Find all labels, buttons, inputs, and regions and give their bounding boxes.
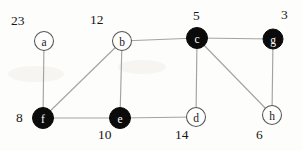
node-weight-b: 12 — [90, 13, 104, 27]
graph-edge-g-h — [272, 39, 273, 115]
node-weight-g: 3 — [281, 8, 288, 22]
node-weight-a: 23 — [11, 14, 25, 28]
node-weight-f: 8 — [16, 111, 23, 125]
graph-figure: abcgfedh 231253810146 — [0, 0, 302, 151]
graph-edge-e-d — [120, 117, 196, 118]
graph-node-g[interactable]: g — [263, 29, 283, 49]
edges-layer — [43, 38, 273, 118]
graph-node-h[interactable]: h — [263, 106, 282, 125]
graph-edge-a-f — [43, 41, 44, 118]
node-label-d: d — [193, 112, 199, 124]
graph-edge-b-f — [43, 41, 122, 118]
graph-edge-c-d — [196, 38, 197, 117]
graph-node-f[interactable]: f — [33, 108, 54, 129]
graph-node-b[interactable]: b — [113, 32, 132, 51]
graph-edge-c-h — [197, 38, 272, 115]
node-label-h: h — [269, 110, 275, 122]
graph-edge-c-g — [197, 38, 273, 39]
node-label-e: e — [117, 113, 122, 125]
graph-node-c[interactable]: c — [187, 28, 208, 49]
nodes-layer: abcgfedh — [33, 28, 284, 129]
node-label-a: a — [41, 36, 46, 48]
graph-edge-b-c — [122, 38, 197, 41]
graph-edge-b-e — [120, 41, 122, 118]
graph-node-e[interactable]: e — [110, 108, 131, 129]
node-weight-e: 10 — [98, 128, 112, 142]
node-label-b: b — [119, 36, 125, 48]
node-label-g: g — [270, 34, 276, 47]
node-weight-h: 6 — [256, 128, 263, 142]
graph-node-d[interactable]: d — [187, 108, 206, 127]
graph-node-a[interactable]: a — [35, 32, 54, 51]
node-weight-c: 5 — [193, 9, 200, 23]
node-label-c: c — [194, 33, 199, 45]
node-label-f: f — [41, 113, 45, 125]
node-weight-d: 14 — [175, 128, 189, 142]
